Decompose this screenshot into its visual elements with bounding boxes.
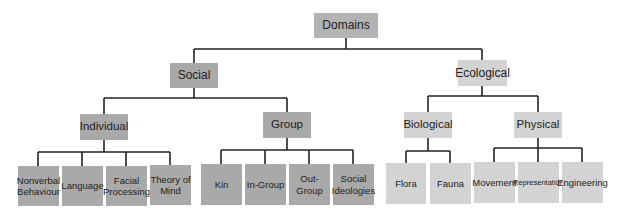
leaf-fauna: Fauna <box>430 163 471 204</box>
leaf-facial-processing: Facial Processing <box>106 166 147 206</box>
node-ecological: Ecological <box>458 60 507 86</box>
leaf-representation: Representation <box>518 162 559 203</box>
leaf-language: Language <box>62 166 103 206</box>
domains-tree-diagram: Domains Social Ecological Individual Gro… <box>0 0 617 216</box>
node-domains: Domains <box>314 13 378 38</box>
leaf-out-group: Out-Group <box>289 164 330 205</box>
node-social: Social <box>170 63 218 88</box>
node-biological: Biological <box>404 112 452 138</box>
node-group: Group <box>263 112 311 138</box>
leaf-kin: Kin <box>201 164 242 205</box>
node-physical: Physical <box>514 112 562 138</box>
leaf-theory-of-mind: Theory of Mind <box>150 165 191 205</box>
leaf-social-ideologies: Social Ideologies <box>333 164 374 205</box>
leaf-nonverbal-behaviour: Nonverbal Behaviour <box>18 166 59 206</box>
leaf-movement: Movement <box>474 162 515 203</box>
node-individual: Individual <box>80 114 128 140</box>
leaf-flora: Flora <box>386 163 426 204</box>
leaf-engineering: Engineering <box>562 162 603 203</box>
leaf-in-group: In-Group <box>245 164 286 205</box>
